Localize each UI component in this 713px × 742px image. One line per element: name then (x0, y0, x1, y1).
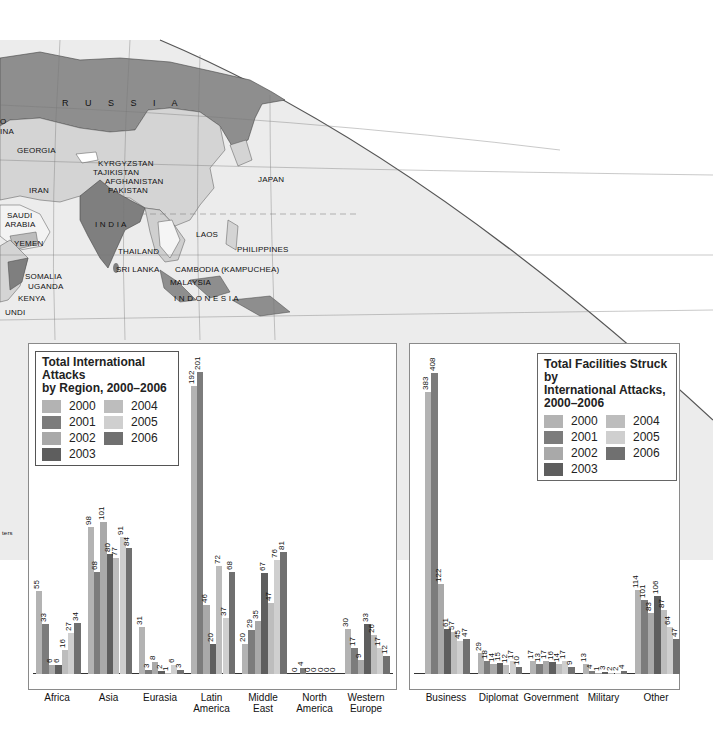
bar-value-label: 6 (168, 659, 176, 663)
map-label: SOMALIA (25, 272, 62, 281)
attacks-legend-items: 2000200420012005200220062003 (42, 399, 172, 461)
bar-value-label: 31 (136, 617, 144, 626)
legend-title-line: by Region, 2000–2006 (42, 382, 172, 395)
bar-value-label: 98 (85, 516, 93, 525)
bar-value-label: 57 (448, 621, 456, 630)
map-label: INA (0, 127, 14, 136)
legend-title-line: Total Facilities Struck by (544, 358, 670, 384)
facilities-legend: Total Facilities Struck by International… (537, 353, 677, 481)
legend-label: 2003 (571, 462, 598, 476)
bar-value-label: 91 (117, 526, 125, 535)
map-label: SRI LANKA (116, 265, 160, 274)
category-label: Military (574, 692, 634, 703)
legend-swatch (544, 463, 563, 476)
category-label: WesternEurope (336, 692, 396, 714)
bar-value-label: 33 (362, 614, 370, 623)
category-label: Government (521, 692, 581, 703)
category-label: Business (416, 692, 476, 703)
category-label-line: Business (416, 692, 476, 703)
bar-value-label: 47 (671, 628, 679, 637)
map-label: SAUDI (7, 211, 32, 220)
bar-value-label: 408 (429, 358, 437, 371)
legend-swatch (104, 432, 123, 445)
legend-item-2006: 2006 (606, 446, 666, 460)
bar-value-label: 3 (143, 663, 151, 667)
legend-item-2002: 2002 (42, 431, 104, 445)
legend-label: 2004 (131, 399, 158, 413)
map-label: I N D O N E S I A (174, 294, 239, 303)
legend-item-2000: 2000 (544, 414, 606, 428)
legend-swatch (606, 447, 625, 460)
legend-swatch (606, 415, 625, 428)
bar-value-label: 4 (618, 665, 626, 669)
bar-value-label: 6 (53, 659, 61, 663)
bar-value-label: 383 (422, 376, 430, 389)
bar-value-label: 47 (461, 628, 469, 637)
legend-item-2001: 2001 (544, 430, 606, 444)
bar-value-label: 201 (194, 357, 202, 370)
attacks-legend: Total International Attacks by Region, 2… (35, 351, 179, 466)
map-label: UNDI (5, 308, 25, 317)
category-label-line: Western (336, 692, 396, 703)
bar (621, 671, 627, 674)
bar-value-label: 77 (111, 547, 119, 556)
legend-swatch (104, 416, 123, 429)
bar-value-label: 27 (65, 623, 73, 632)
legend-swatch (104, 400, 123, 413)
map-label: PAKISTAN (108, 186, 148, 195)
map-label: GEORGIA (17, 146, 56, 155)
bar-value-label: 35 (252, 611, 260, 620)
bar-value-label: 17 (349, 638, 357, 647)
map-label: R U S S I A (62, 98, 185, 108)
bar-value-label: 68 (226, 561, 234, 570)
facilities-struck-chart: 3834081226157454729181415121710171317161… (409, 343, 680, 690)
map-label: JAPAN (258, 175, 284, 184)
bar-value-label: 16 (59, 639, 67, 648)
bar (229, 572, 235, 674)
legend-swatch (544, 447, 563, 460)
bar (280, 552, 286, 674)
category-label-line: Other (626, 692, 686, 703)
bar-value-label: 67 (259, 562, 267, 571)
bar-value-label: 37 (220, 608, 228, 617)
bar (673, 639, 679, 674)
bar-value-label: 76 (271, 549, 279, 558)
bar (463, 639, 469, 674)
bar-value-label: 30 (342, 618, 350, 627)
map-label: IRAN (29, 186, 49, 195)
legend-swatch (544, 415, 563, 428)
legend-swatch (42, 400, 61, 413)
bar-value-label: 20 (239, 633, 247, 642)
bar-value-label: 47 (265, 592, 273, 601)
map-label: UGANDA (28, 282, 63, 291)
legend-label: 2003 (69, 447, 96, 461)
bar (126, 548, 132, 674)
facilities-legend-title: Total Facilities Struck by International… (544, 358, 670, 410)
legend-label: 2002 (571, 446, 598, 460)
bar-value-label: 34 (72, 612, 80, 621)
map-label: O (0, 117, 6, 126)
bar-value-label: 83 (645, 602, 653, 611)
map-label: THAILAND (118, 247, 159, 256)
bar-value-label: 106 (652, 580, 660, 593)
bar-value-label: 33 (40, 614, 48, 623)
legend-item-2001: 2001 (42, 415, 104, 429)
legend-item-2003: 2003 (544, 462, 606, 476)
map-label: KYRGYZSTAN (98, 159, 154, 168)
legend-swatch (606, 431, 625, 444)
bar-value-label: 192 (188, 370, 196, 383)
legend-label: 2001 (571, 430, 598, 444)
legend-item-2005: 2005 (606, 430, 666, 444)
bar-value-label: 17 (559, 651, 567, 660)
legend-title-line: 2000–2006 (544, 397, 670, 410)
legend-label: 2005 (633, 430, 660, 444)
legend-swatch (42, 416, 61, 429)
bar-value-label: 0 (291, 668, 299, 672)
bar-value-label: 29 (246, 620, 254, 629)
legend-title-line: Total International Attacks (42, 356, 172, 382)
bar-value-label: 26 (368, 624, 376, 633)
bar (74, 623, 80, 674)
bar-value-label: 9 (566, 661, 574, 665)
bar (516, 667, 522, 674)
legend-swatch (544, 431, 563, 444)
